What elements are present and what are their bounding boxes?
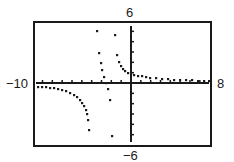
plot-point [37,86,39,88]
plot-point [133,74,135,76]
plot-point [137,75,139,77]
plot-point [45,86,47,88]
plot-point [53,87,55,89]
plot-point [96,30,98,32]
plot-point [83,105,85,107]
plot-point [167,78,169,80]
plot-point [155,77,157,79]
plot-point [88,129,90,131]
plot-point [116,54,118,56]
plot-point [85,109,87,111]
calculator-graph-screen [0,0,234,162]
plot-point [86,113,88,115]
plot-point [120,65,122,67]
plot-point [122,68,124,70]
plot-point [103,76,105,78]
plot-point [87,119,89,121]
plot-point [161,78,163,80]
plot-point [69,92,71,94]
plot-point [105,82,107,84]
plot-point [100,62,102,64]
plot-point [65,90,67,92]
plot-point [101,69,103,71]
plot-point [118,61,120,63]
plot-point [185,79,187,81]
plot-point [76,96,78,98]
plot-point [57,88,59,90]
plot-point [145,76,147,78]
plot-point [197,80,199,82]
plot-point [208,80,210,82]
plot-point [114,34,116,36]
plot-point [111,135,113,137]
plot-point [127,72,129,74]
plot-point [141,75,143,77]
plot-point [149,77,151,79]
plot-point [107,88,109,90]
plot-point [130,73,132,75]
plot-point [61,89,63,91]
plot-point [73,94,75,96]
plot-point [124,70,126,72]
plot-point [109,99,111,101]
plot-point [173,79,175,81]
plot-point [179,79,181,81]
plot-point [98,52,100,54]
plot-point [79,99,81,101]
plot-point [49,87,51,89]
plot-point [203,80,205,82]
plot-point [81,102,83,104]
plot-point [191,79,193,81]
plot-point [41,86,43,88]
